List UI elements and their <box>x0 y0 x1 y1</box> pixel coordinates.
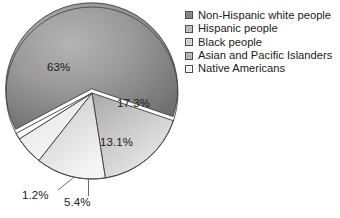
legend-swatch-icon-non-hispanic-white-people <box>185 11 193 19</box>
chart-legend: Non-Hispanic white people Hispanic peopl… <box>185 9 340 76</box>
legend-swatch-icon-asian-and-pacific-islanders <box>185 52 193 60</box>
legend-label-asian-and-pacific-islanders: Asian and Pacific Islanders <box>198 50 332 61</box>
leader-line-native-americans <box>58 178 74 191</box>
legend-item-black-people[interactable]: Black people <box>185 36 340 49</box>
legend-swatch-icon-black-people <box>185 38 193 46</box>
legend-label-black-people: Black people <box>198 37 262 48</box>
pie-data-label-asian-and-pacific-islanders: 5.4% <box>64 197 91 209</box>
legend-label-hispanic-people: Hispanic people <box>198 23 278 34</box>
legend-label-native-americans: Native Americans <box>198 63 285 74</box>
pie-chart-plot-area: 63% 17.3% 13.1% 1.2% 5.4% <box>0 0 190 218</box>
pie-data-label-native-americans: 1.2% <box>22 190 49 202</box>
pie-chart-figure: 63% 17.3% 13.1% 1.2% 5.4% Non-Hispanic w… <box>0 0 340 218</box>
pie-data-label-black-people: 13.1% <box>100 137 133 149</box>
legend-item-asian-and-pacific-islanders[interactable]: Asian and Pacific Islanders <box>185 49 340 62</box>
legend-item-non-hispanic-white-people[interactable]: Non-Hispanic white people <box>185 9 340 22</box>
legend-label-non-hispanic-white-people: Non-Hispanic white people <box>198 10 331 21</box>
legend-item-native-americans[interactable]: Native Americans <box>185 63 340 76</box>
legend-swatch-icon-hispanic-people <box>185 25 193 33</box>
pie-chart-svg <box>0 0 190 218</box>
legend-item-hispanic-people[interactable]: Hispanic people <box>185 22 340 35</box>
pie-data-label-non-hispanic-white-people: 63% <box>47 62 70 74</box>
legend-swatch-icon-native-americans <box>185 65 193 73</box>
pie-data-label-hispanic-people: 17.3% <box>117 98 150 110</box>
